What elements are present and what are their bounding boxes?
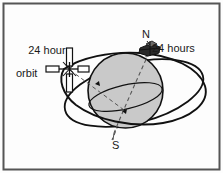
label-24-hours: 24 hours xyxy=(152,43,195,55)
label-24-hour-orbit-line2: orbit xyxy=(16,68,66,80)
diagram-figure: 24 hour orbit 24 hours N S xyxy=(0,0,223,173)
label-24-hour-orbit: 24 hour orbit xyxy=(16,33,66,102)
label-north-pole: N xyxy=(142,29,150,41)
label-24-hour-orbit-line1: 24 hour xyxy=(28,44,65,56)
label-south-pole: S xyxy=(112,140,119,152)
